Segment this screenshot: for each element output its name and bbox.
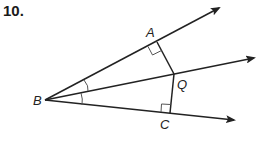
ray-bc <box>45 100 234 120</box>
segment-aq <box>157 42 174 74</box>
label-b: B <box>33 93 42 108</box>
geometry-diagram: A Q C B <box>0 0 261 145</box>
ray-ba <box>45 8 219 100</box>
label-c: C <box>160 117 170 132</box>
label-a: A <box>145 25 155 40</box>
segment-cq <box>170 74 174 113</box>
ray-bq <box>45 58 254 100</box>
right-angle-mark-c <box>161 104 171 112</box>
angle-arc-abq <box>84 80 88 91</box>
label-q: Q <box>177 77 187 92</box>
